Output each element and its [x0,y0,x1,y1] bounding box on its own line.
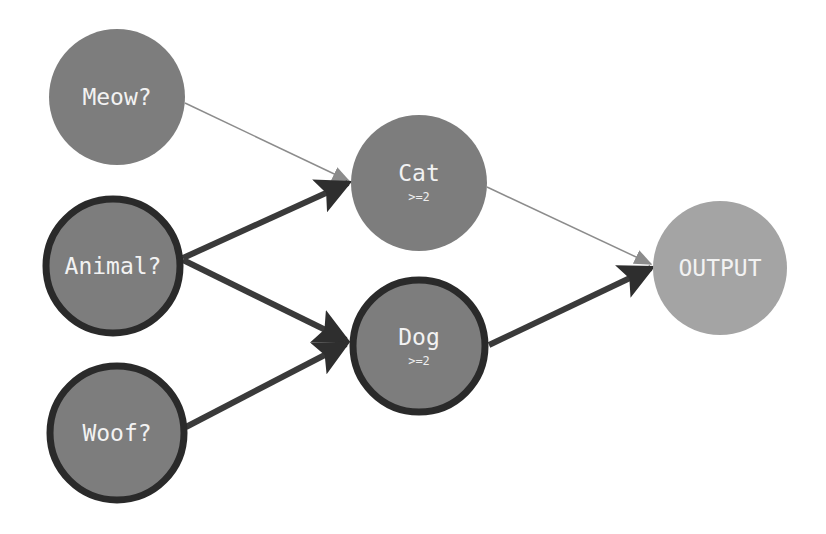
edge-woof-to-dog [186,344,346,427]
node-animal: Animal? [46,199,180,333]
edge-cat-to-output [487,187,651,264]
node-woof-label: Woof? [82,420,151,446]
node-dog-threshold: >=2 [408,354,430,368]
edge-animal-to-cat [183,183,348,258]
edge-meow-to-cat [185,103,349,181]
node-dog: Dog >=2 [353,280,485,412]
edge-dog-to-output [489,268,651,345]
neural-network-diagram: Meow? Animal? Woof? Cat >=2 Dog >=2 OUTP… [0,0,826,534]
node-dog-label: Dog [398,324,440,350]
node-cat: Cat >=2 [351,115,487,251]
node-cat-threshold: >=2 [408,190,430,204]
node-woof: Woof? [50,366,184,500]
edge-animal-to-dog [183,260,346,340]
node-output: OUTPUT [653,201,787,335]
node-meow: Meow? [49,29,185,165]
node-cat-label: Cat [398,160,440,186]
node-meow-label: Meow? [82,84,151,110]
node-output-label: OUTPUT [678,255,761,281]
node-animal-label: Animal? [65,253,162,279]
